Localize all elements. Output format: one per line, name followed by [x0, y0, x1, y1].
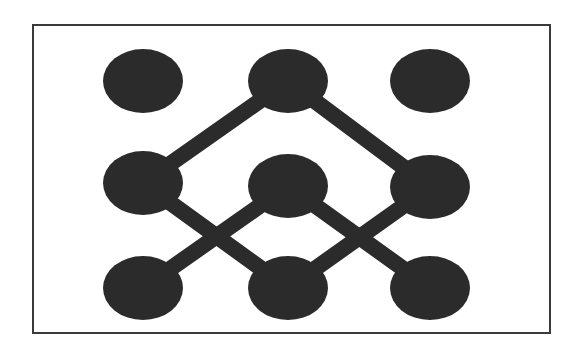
node-top-right	[390, 49, 470, 113]
node-bottom-right	[390, 256, 470, 320]
diagram-canvas	[0, 0, 586, 348]
node-top-center	[248, 49, 328, 113]
node-middle-left	[103, 151, 183, 215]
node-top-left	[103, 49, 183, 113]
node-group	[103, 49, 470, 320]
node-middle-center	[248, 154, 328, 218]
network-graph	[0, 0, 586, 348]
node-bottom-center	[248, 256, 328, 320]
node-bottom-left	[103, 256, 183, 320]
node-middle-right	[390, 155, 470, 219]
